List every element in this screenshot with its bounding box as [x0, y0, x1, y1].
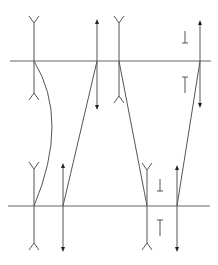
- arrowhead-up-icon: [61, 163, 65, 168]
- arrowhead-down-icon: [175, 247, 179, 252]
- fork-top-icon: [29, 16, 39, 23]
- fork-bottom-icon: [142, 243, 152, 250]
- ray-line: [63, 61, 97, 206]
- ray-curve: [34, 61, 52, 206]
- arrowhead-down-icon: [61, 247, 65, 252]
- fork-bottom-icon: [29, 93, 39, 100]
- arrowhead-up-icon: [175, 165, 179, 170]
- ray-line: [119, 61, 147, 206]
- ray-line: [177, 61, 200, 206]
- optics-diagram: [0, 0, 218, 265]
- fork-bottom-icon: [114, 96, 124, 103]
- arrowhead-up-icon: [198, 20, 202, 25]
- fork-bottom-icon: [29, 243, 39, 250]
- fork-top-icon: [142, 163, 152, 170]
- fork-top-icon: [29, 162, 39, 169]
- fork-top-icon: [114, 16, 124, 23]
- arrowhead-up-icon: [95, 19, 99, 24]
- arrowhead-down-icon: [198, 103, 202, 108]
- arrowhead-down-icon: [95, 105, 99, 110]
